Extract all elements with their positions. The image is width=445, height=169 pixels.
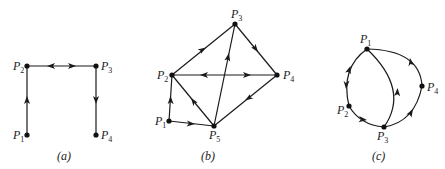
- edge-c-p3-p4: [384, 86, 422, 127]
- panel-c: P1 P2 P3 P4 (c): [336, 32, 438, 163]
- edge-c-p1-p2: [347, 49, 367, 106]
- label-b-p1: P1: [154, 114, 166, 130]
- node-b-p2: [169, 72, 174, 77]
- panel-b: P1 P2 P3 P4 P5 (b): [154, 7, 294, 163]
- label-c-p4: P4: [426, 80, 438, 96]
- edge-c-p2-p3: [349, 106, 384, 127]
- label-a-p4: P4: [100, 128, 112, 144]
- label-b-p3: P3: [230, 7, 242, 23]
- label-a-p2: P2: [12, 59, 24, 75]
- node-a-p2: [24, 63, 29, 68]
- caption-b: (b): [201, 149, 215, 163]
- label-c-p1: P1: [359, 32, 371, 48]
- edge-c-p4-p1: [367, 49, 422, 86]
- arrow-up-icon: [394, 88, 400, 96]
- directed-graphs-figure: P1 P2 P3 P4 (a): [0, 0, 445, 169]
- node-c-p4: [419, 83, 424, 88]
- node-b-p1: [166, 118, 171, 123]
- label-a-p3: P3: [100, 59, 112, 75]
- label-a-p1: P1: [12, 128, 24, 144]
- node-b-p4: [274, 72, 279, 77]
- arrow-up-icon: [345, 66, 351, 74]
- node-a-p1: [24, 132, 29, 137]
- node-a-p3: [93, 63, 98, 68]
- arrow-up-icon: [409, 58, 415, 67]
- label-c-p3: P3: [376, 129, 388, 145]
- label-b-p4: P4: [282, 68, 294, 84]
- caption-c: (c): [372, 149, 385, 163]
- label-b-p5: P5: [208, 128, 220, 144]
- caption-a: (a): [57, 149, 71, 163]
- panel-a: P1 P2 P3 P4 (a): [12, 59, 112, 163]
- node-b-p3: [232, 21, 237, 26]
- node-c-p2: [346, 103, 351, 108]
- label-b-p2: P2: [156, 68, 168, 84]
- edge-c-p3-p1: [367, 49, 394, 127]
- node-a-p4: [93, 132, 98, 137]
